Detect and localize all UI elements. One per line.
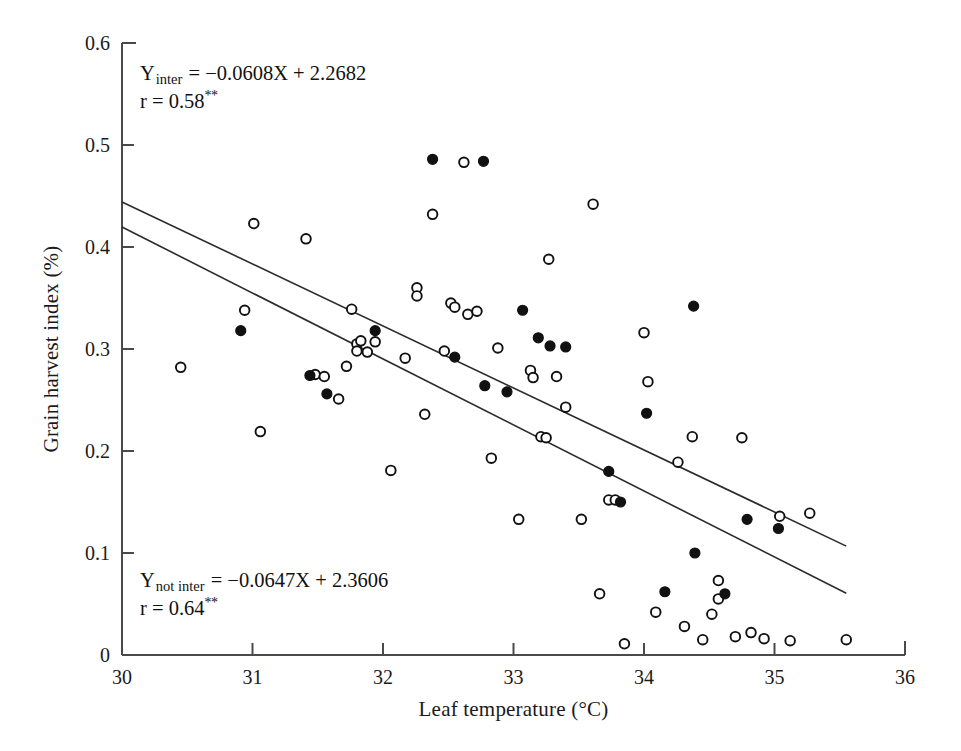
data-point-open — [420, 409, 430, 419]
data-point-filled — [742, 514, 752, 524]
data-point-filled — [616, 497, 626, 507]
data-point-filled — [502, 387, 512, 397]
data-point-open — [687, 432, 697, 442]
annotation-inter: Yinter = −0.0608X + 2.2682 r = 0.58** — [140, 60, 366, 115]
data-point-filled — [660, 587, 670, 597]
data-point-open — [639, 328, 649, 338]
data-point-open — [785, 636, 795, 646]
data-point-filled — [545, 341, 555, 351]
data-point-open — [714, 576, 724, 586]
annotation-inter-symbol: Y — [140, 62, 155, 84]
data-point-open — [428, 210, 438, 220]
data-point-open — [342, 362, 352, 372]
annotation-not-inter-r-value: r = 0.64 — [140, 597, 205, 619]
data-point-filled — [478, 156, 488, 166]
y-tick-label: 0 — [100, 644, 110, 667]
data-point-filled — [561, 342, 571, 352]
data-point-open — [620, 639, 630, 649]
annotation-inter-expression: = −0.0608X + 2.2682 — [189, 62, 367, 84]
data-point-filled — [689, 301, 699, 311]
x-tick-label: 30 — [112, 666, 132, 689]
annotation-not-inter: Ynot inter = −0.0647X + 2.3606 r = 0.64*… — [140, 567, 388, 622]
data-point-open — [707, 609, 717, 619]
data-point-filled — [305, 371, 315, 381]
y-axis-title: Grain harvest index (%) — [34, 43, 68, 655]
annotation-inter-subscript: inter — [155, 71, 184, 87]
data-point-open — [680, 622, 690, 632]
data-point-open — [249, 219, 259, 229]
x-tick-label: 36 — [895, 666, 915, 689]
annotation-not-inter-symbol: Y — [140, 569, 155, 591]
data-point-open — [759, 634, 769, 644]
data-point-open — [440, 346, 450, 356]
data-point-filled — [690, 548, 700, 558]
data-point-open — [487, 453, 497, 463]
data-point-filled — [642, 408, 652, 418]
y-tick-label: 0.4 — [85, 236, 110, 259]
data-point-filled — [322, 389, 332, 399]
data-point-filled — [773, 524, 783, 534]
data-point-filled — [604, 466, 614, 476]
x-tick-label: 34 — [634, 666, 654, 689]
data-point-open — [352, 346, 362, 356]
data-point-open — [544, 254, 554, 264]
y-tick-label: 0.3 — [85, 338, 110, 361]
data-point-open — [450, 302, 460, 312]
data-point-open — [595, 589, 605, 599]
data-point-filled — [480, 381, 490, 391]
annotation-not-inter-expression: = −0.0647X + 2.3606 — [211, 569, 389, 591]
data-point-filled — [236, 326, 246, 336]
data-point-open — [731, 632, 741, 642]
data-point-open — [805, 508, 815, 518]
x-tick-label: 33 — [504, 666, 524, 689]
data-point-open — [363, 347, 373, 357]
regression-line-not-inter — [122, 227, 846, 593]
annotation-not-inter-subscript: not inter — [155, 578, 206, 594]
annotation-not-inter-r: r = 0.64** — [140, 594, 388, 622]
annotation-inter-equation: Yinter = −0.0608X + 2.2682 — [140, 60, 366, 87]
y-tick-label: 0.2 — [85, 440, 110, 463]
y-tick-label: 0.5 — [85, 134, 110, 157]
regression-lines — [122, 202, 846, 593]
data-point-open — [528, 373, 538, 383]
data-point-open — [651, 607, 661, 617]
annotation-inter-significance: ** — [205, 88, 218, 103]
data-point-open — [347, 304, 357, 314]
data-point-open — [841, 635, 851, 645]
data-point-open — [698, 635, 708, 645]
y-tick-label: 0.6 — [85, 32, 110, 55]
data-point-filled — [533, 333, 543, 343]
data-point-open — [643, 377, 653, 387]
x-axis-title: Leaf temperature (°C) — [122, 697, 905, 722]
data-point-open — [356, 336, 366, 346]
data-point-open — [514, 515, 524, 525]
data-point-open — [577, 515, 587, 525]
data-point-open — [541, 433, 551, 443]
data-point-open — [240, 305, 250, 315]
data-point-open — [561, 402, 571, 412]
annotation-not-inter-equation: Ynot inter = −0.0647X + 2.3606 — [140, 567, 388, 594]
data-point-filled — [450, 352, 460, 362]
data-point-open — [176, 363, 186, 373]
x-tick-label: 31 — [243, 666, 263, 689]
data-point-open — [673, 457, 683, 467]
data-point-open — [400, 353, 410, 363]
data-point-open — [493, 343, 503, 353]
data-point-open — [370, 337, 380, 347]
data-point-open — [463, 310, 473, 320]
annotation-inter-r: r = 0.58** — [140, 87, 366, 115]
data-point-filled — [370, 326, 380, 336]
data-point-open — [459, 158, 469, 168]
data-point-open — [412, 291, 422, 301]
annotation-inter-r-value: r = 0.58 — [140, 90, 205, 112]
data-point-filled — [720, 589, 730, 599]
data-point-open — [319, 372, 329, 382]
data-point-open — [301, 234, 311, 244]
data-point-open — [472, 306, 482, 316]
annotation-not-inter-significance: ** — [205, 595, 218, 610]
data-point-filled — [428, 154, 438, 164]
x-tick-label: 32 — [373, 666, 393, 689]
scatter-plot-figure: 30313233343536 00.10.20.30.40.50.6 Grain… — [0, 0, 961, 751]
data-point-open — [552, 372, 562, 382]
data-point-filled — [518, 305, 528, 315]
